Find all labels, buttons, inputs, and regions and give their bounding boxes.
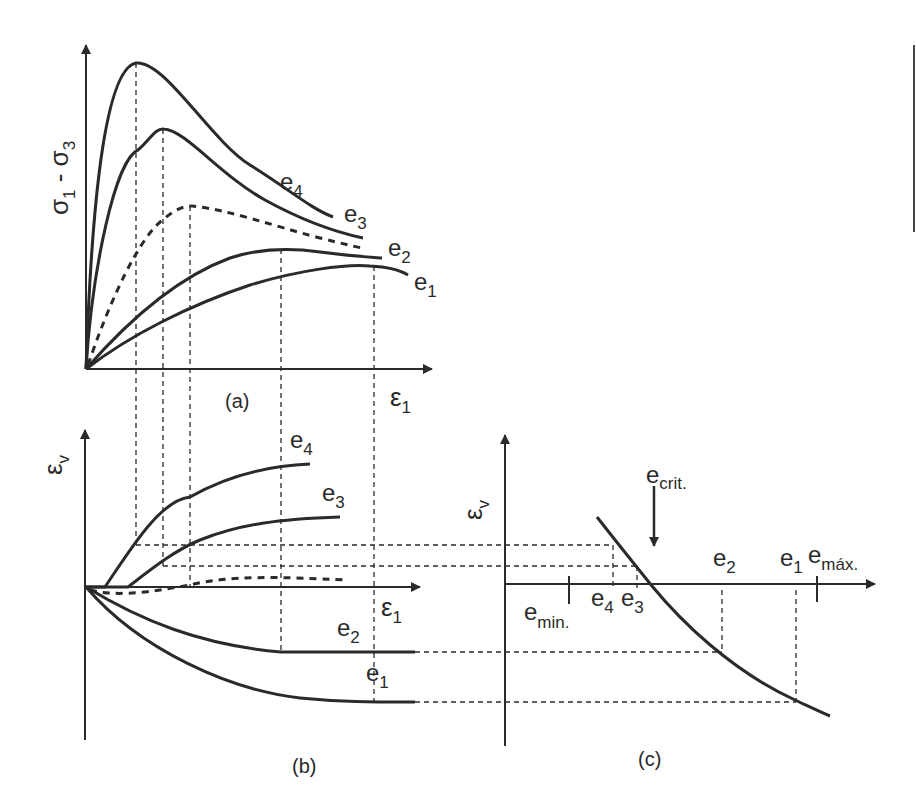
panel-b-x-axis-label: ε1 [381,592,402,627]
panel-a-caption: (a) [225,390,249,412]
label-emin: emin. [524,598,569,632]
panel-b-curve-e2 [86,587,415,652]
soil-behavior-diagram: e4 e3 e2 e1 σ1 - σ3 ε1 (a) e4 e3 e2 e1 ε… [0,0,916,809]
panel-a-label-e3: e3 [344,200,367,233]
label-e2: e2 [713,544,736,577]
panel-c-y-axis-label: εv [458,499,493,520]
panel-a-curve-e3 [86,129,363,369]
panel-a-label-e4: e4 [280,168,303,201]
panel-c-projection-lines [613,545,796,702]
panel-b-caption: (b) [292,755,316,777]
label-e1: e1 [780,544,803,577]
ecrit-label: ecrit. [646,461,687,493]
panel-b-projection-lines [136,545,796,702]
panel-b-label-e4: e4 [290,426,313,459]
panel-b-y-axis-label: εv [38,454,73,475]
panel-c-caption: (c) [638,748,661,770]
panel-a-y-axis-label: σ1 - σ3 [44,141,79,215]
panel-b-label-e1: e1 [366,659,389,692]
label-emax: emáx. [808,541,858,574]
panel-a-label-e2: e2 [388,234,411,267]
panel-b-curve-e4 [86,464,310,587]
panel-b-curve-e3 [86,517,340,587]
panel-a-x-axis-label: ε1 [390,382,411,417]
panel-c: ecrit. emin. e4 e3 e2 e1 emáx. εv (c) [458,435,875,770]
panel-a-label-e1: e1 [414,268,437,301]
panel-a-projection-lines [136,63,374,702]
panel-a-curve-e1 [86,266,408,369]
panel-b-label-e3: e3 [322,479,345,512]
label-e4: e4 [591,584,614,617]
panel-b-label-e2: e2 [337,614,360,647]
label-e3: e3 [621,584,644,617]
